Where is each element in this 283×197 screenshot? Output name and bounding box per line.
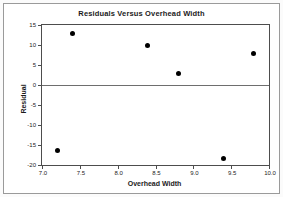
x-axis-label: Overhead Width xyxy=(41,180,268,187)
y-axis-tick: 0 xyxy=(38,85,42,86)
y-axis-tick: -15 xyxy=(38,145,42,146)
y-axis-tick-label: 10 xyxy=(29,42,36,48)
y-axis-tick-label: -15 xyxy=(27,142,36,148)
y-axis-tick: -10 xyxy=(38,125,42,126)
zero-reference-line xyxy=(42,85,269,86)
y-axis-tick: 10 xyxy=(38,45,42,46)
scatter-point xyxy=(145,43,150,48)
plot-area: 151050-5-10-15-20 7.07.58.08.59.09.510.0 xyxy=(41,24,270,166)
x-axis-tick: 9.5 xyxy=(231,165,232,169)
y-axis-tick: 5 xyxy=(38,65,42,66)
x-axis-tick: 9.0 xyxy=(193,165,194,169)
y-axis-tick-label: 15 xyxy=(29,22,36,28)
x-axis-tick-label: 8.5 xyxy=(152,170,160,176)
x-axis-tick-label: 10.0 xyxy=(264,170,276,176)
scatter-point xyxy=(251,51,256,56)
x-axis-tick: 7.0 xyxy=(42,165,43,169)
x-axis-tick-label: 9.0 xyxy=(190,170,198,176)
chart-figure: Residuals Versus Overhead Width Residual… xyxy=(0,0,283,197)
y-axis-tick-label: 5 xyxy=(33,62,36,68)
x-axis-tick-label: 7.0 xyxy=(39,170,47,176)
y-axis-tick-label: 0 xyxy=(33,82,36,88)
y-axis-tick-label: -5 xyxy=(31,102,36,108)
y-axis-tick-label: -20 xyxy=(27,162,36,168)
scatter-point xyxy=(221,156,226,161)
x-axis-tick: 8.5 xyxy=(156,165,157,169)
y-axis-tick: 15 xyxy=(38,25,42,26)
x-axis-tick-label: 8.0 xyxy=(114,170,122,176)
scatter-point xyxy=(176,71,181,76)
x-axis-tick: 7.5 xyxy=(80,165,81,169)
x-axis-tick-label: 9.5 xyxy=(228,170,236,176)
x-axis-tick: 8.0 xyxy=(118,165,119,169)
scatter-point xyxy=(70,31,75,36)
y-axis-tick: -5 xyxy=(38,105,42,106)
x-axis-tick-label: 7.5 xyxy=(77,170,85,176)
y-axis-label: Residual xyxy=(20,84,27,113)
y-axis-tick-label: -10 xyxy=(27,122,36,128)
chart-title: Residuals Versus Overhead Width xyxy=(0,9,283,18)
x-axis-tick: 10.0 xyxy=(269,165,270,169)
scatter-point xyxy=(55,148,60,153)
